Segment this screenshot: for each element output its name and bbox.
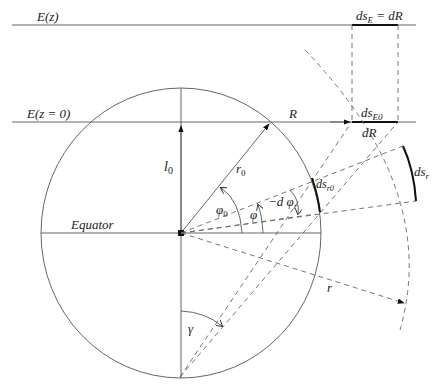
r-ray — [181, 233, 404, 303]
label-r: r — [327, 280, 333, 295]
ray-upper — [181, 146, 403, 233]
label-phi: φ — [250, 207, 257, 222]
label-r0: r0 — [236, 161, 246, 178]
label-ez0: E(z = 0) — [26, 106, 70, 121]
label-dR: dR — [362, 125, 377, 140]
gamma-line-2 — [180, 123, 397, 377]
label-l0: l0 — [164, 159, 173, 176]
label-ds-e: dsE = dR — [356, 8, 403, 25]
label-phi0: φ0 — [216, 202, 228, 219]
label-equator: Equator — [70, 217, 115, 232]
label-ds-e0: dsE0 — [361, 105, 383, 122]
gamma-line-1 — [180, 123, 351, 377]
label-ez: E(z) — [36, 9, 59, 24]
label-R: R — [288, 106, 297, 121]
ray-mid — [181, 214, 316, 233]
label-ds-r0: dsr0 — [316, 177, 334, 193]
label-ds-r: dsr — [414, 164, 430, 181]
label-dphi: −d φr — [268, 194, 298, 211]
phi-arc — [258, 205, 263, 233]
geometry-diagram: E(z) E(z = 0) dsE = dR dsE0 dR R dsr dsr… — [0, 0, 437, 388]
label-gamma: γ — [188, 321, 194, 336]
